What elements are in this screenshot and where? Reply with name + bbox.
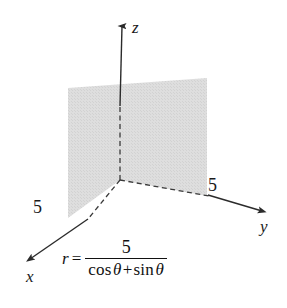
- x-axis-label: x: [26, 268, 34, 285]
- equation-numerator: 5: [116, 238, 137, 258]
- figure-canvas: z y x 5 5 r = 5 cos θ+sin θ: [0, 0, 287, 308]
- sin-function-name: sin: [133, 260, 153, 279]
- y-intercept-label: 5: [208, 176, 217, 194]
- theta-symbol-cos: θ: [113, 260, 122, 279]
- equation: r = 5 cos θ+sin θ: [62, 238, 167, 279]
- equation-denominator: cos θ+sin θ: [85, 259, 167, 280]
- x-intercept-label: 5: [33, 198, 42, 216]
- plus-operator: +: [122, 260, 134, 279]
- cos-function-name: cos: [88, 260, 111, 279]
- y-axis-line: [208, 195, 262, 211]
- y-axis-label: y: [260, 218, 268, 235]
- equation-lhs: r: [62, 249, 69, 269]
- shaded-plane: [68, 78, 207, 218]
- equation-equals-sign: =: [72, 249, 82, 269]
- theta-symbol-sin: θ: [156, 260, 165, 279]
- equation-fraction: 5 cos θ+sin θ: [85, 238, 167, 279]
- z-axis-label: z: [132, 19, 139, 36]
